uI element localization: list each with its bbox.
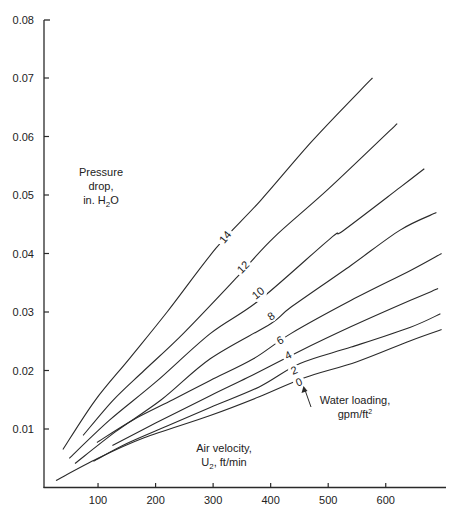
y-tick-label: 0.08	[13, 14, 34, 26]
y-tick-label: 0.02	[13, 365, 34, 377]
water-line-2: gpm/ft2	[338, 408, 373, 420]
x-tick-label: 600	[377, 494, 395, 506]
xlabel-line-2: U2, ft/min	[201, 456, 246, 471]
arrow-shaft	[305, 390, 311, 407]
curve-label-12: 12	[234, 258, 251, 275]
x-ticks: 100200300400500600	[89, 483, 395, 506]
x-axis-label: Air velocity, U2, ft/min	[196, 442, 251, 471]
curve-water-loading-6	[97, 254, 442, 443]
y-tick-label: 0.05	[13, 189, 34, 201]
curves	[56, 78, 442, 481]
xlabel-line-1: Air velocity,	[196, 442, 251, 454]
water-line-1: Water loading,	[320, 394, 391, 406]
ylabel-line-2: drop,	[88, 180, 113, 192]
curve-label-10: 10	[249, 284, 266, 301]
curve-water-loading-8	[75, 213, 436, 464]
y-tick-label: 0.01	[13, 423, 34, 435]
ylabel-line-1: Pressure	[79, 166, 123, 178]
curve-water-loading-2	[93, 314, 440, 461]
curve-label-2: 2	[289, 363, 299, 376]
curve-water-loading-4	[112, 289, 438, 446]
y-axis-label: Pressure drop, in. H2O	[79, 166, 123, 209]
ylabel-line-3: in. H2O	[83, 194, 119, 209]
y-tick-label: 0.04	[13, 248, 34, 260]
y-tick-label: 0.07	[13, 72, 34, 84]
x-tick-label: 500	[319, 494, 337, 506]
curve-labels: 14121086420	[216, 228, 304, 388]
axes	[44, 20, 447, 488]
x-tick-label: 400	[261, 494, 279, 506]
x-tick-label: 300	[204, 494, 222, 506]
water-loading-annotation: Water loading, gpm/ft2	[302, 386, 391, 420]
x-tick-label: 200	[146, 494, 164, 506]
curve-water-loading-12	[83, 124, 397, 436]
curve-label-6: 6	[274, 333, 285, 346]
x-tick-label: 100	[89, 494, 107, 506]
y-tick-label: 0.03	[13, 306, 34, 318]
curve-label-0: 0	[294, 375, 304, 388]
y-tick-label: 0.06	[13, 131, 34, 143]
chart: 0.010.020.030.040.050.060.070.08 1002003…	[0, 0, 459, 514]
